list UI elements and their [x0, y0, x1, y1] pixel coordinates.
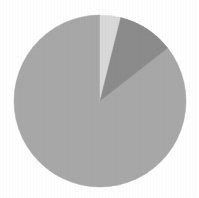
- pie-slice-group: [14, 15, 186, 187]
- pie-chart-figure: [0, 0, 199, 198]
- pie-chart-canvas: [0, 0, 199, 198]
